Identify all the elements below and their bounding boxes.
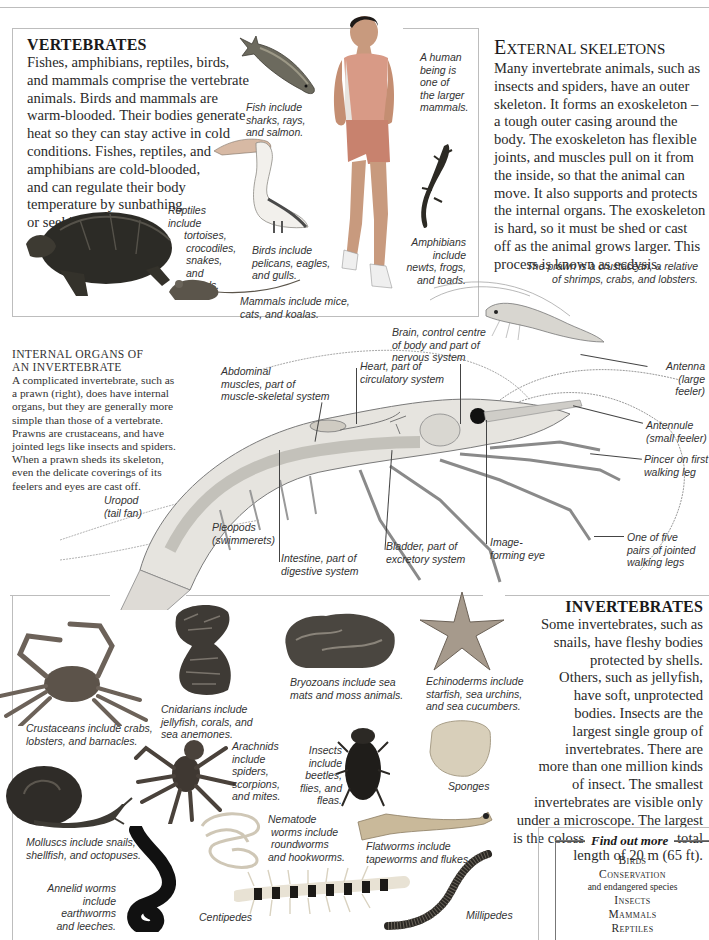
fish-caption: Fish include sharks, rays, and salmon. bbox=[246, 101, 306, 139]
label-uropod: Uropod (tail fan) bbox=[104, 494, 142, 519]
beetle-illustration bbox=[336, 712, 390, 808]
starfish-illustration bbox=[418, 590, 506, 674]
link-insects[interactable]: Insects bbox=[556, 893, 709, 907]
find-out-more-title-row: Find out more bbox=[555, 833, 709, 849]
leader-eye bbox=[486, 420, 487, 544]
link-mammals[interactable]: Mammals bbox=[556, 907, 709, 921]
invertebrates-section: INVERTEBRATES Some invertebrates, such a… bbox=[495, 598, 703, 865]
label-abdominal: Abdominal muscles, part of muscle-skelet… bbox=[221, 365, 330, 403]
link-birds[interactable]: Birds bbox=[556, 853, 709, 867]
vertebrates-box-top-right bbox=[403, 28, 479, 29]
vertebrates-box-left bbox=[12, 28, 13, 316]
label-brain: Brain, control centre of body and part o… bbox=[392, 326, 486, 364]
find-out-more-outer-top bbox=[538, 827, 709, 828]
crab-illustration bbox=[0, 616, 150, 726]
link-conservation[interactable]: Conservation bbox=[556, 867, 709, 881]
leader-walking-legs bbox=[594, 536, 624, 537]
external-skeletons-section: EXTERNAL SKELETONS Many invertebrate ani… bbox=[494, 36, 709, 274]
invertebrates-heading: INVERTEBRATES bbox=[495, 598, 703, 616]
label-pleopods: Pleopods (swimmerets) bbox=[212, 521, 275, 546]
mammals-caption: Mammals include mice, cats, and koalas. bbox=[240, 295, 350, 320]
bryozoans-caption: Bryozoans include sea mats and moss anim… bbox=[290, 676, 403, 701]
label-bladder: Bladder, part of excretory system bbox=[386, 540, 465, 565]
human-caption: A human being is one of the larger mamma… bbox=[420, 51, 468, 114]
label-walking-legs: One of five pairs of jointed walking leg… bbox=[627, 531, 695, 569]
turtle-illustration bbox=[20, 200, 180, 300]
label-antennule: Antennule (small feeler) bbox=[646, 419, 707, 444]
leader-intestine bbox=[279, 450, 280, 562]
sponges-caption: Sponges bbox=[448, 780, 489, 793]
external-skeletons-heading: EXTERNAL SKELETONS bbox=[494, 36, 709, 60]
newt-illustration bbox=[408, 140, 458, 230]
find-out-more-box: Find out more Birds Conservation and end… bbox=[555, 840, 709, 940]
snail-illustration bbox=[4, 764, 134, 834]
find-out-more-links: Birds Conservation and endangered specie… bbox=[556, 853, 709, 935]
leech-illustration bbox=[122, 826, 176, 932]
label-antenna: Antenna (large feeler) bbox=[650, 360, 705, 398]
human-runner-illustration bbox=[322, 12, 412, 292]
sponge-illustration bbox=[428, 716, 492, 778]
echinoderms-caption: Echinoderms include starfish, sea urchin… bbox=[426, 675, 523, 713]
vertebrates-box-top-left bbox=[12, 28, 360, 29]
coral-illustration bbox=[168, 600, 238, 700]
link-conservation-sub[interactable]: and endangered species bbox=[556, 881, 709, 893]
nematodes-caption: Nematode worms include roundworms and ho… bbox=[268, 813, 345, 863]
arachnids-caption: Arachnids include spiders, scorpions, an… bbox=[232, 740, 280, 803]
annelids-caption: Annelid worms include earthworms and lee… bbox=[32, 882, 116, 932]
bryozoan-illustration bbox=[282, 610, 398, 672]
leader-heart bbox=[356, 368, 357, 424]
find-out-more-title: Find out more bbox=[585, 833, 674, 849]
vertebrates-box-right bbox=[478, 28, 479, 316]
insects-caption: Insects include beetles, flies, and flea… bbox=[296, 744, 342, 807]
label-intestine: Intestine, part of digestive system bbox=[281, 552, 359, 577]
millipedes-caption: Millipedes bbox=[466, 909, 513, 922]
label-heart: Heart, part of circulatory system bbox=[360, 360, 444, 385]
label-pincer: Pincer on first walking leg bbox=[644, 453, 708, 478]
centipedes-caption: Centipedes bbox=[199, 911, 252, 924]
leader-brain bbox=[460, 364, 461, 424]
find-out-more-outer-left bbox=[538, 827, 539, 940]
link-reptiles[interactable]: Reptiles bbox=[556, 921, 709, 935]
flatworm-illustration bbox=[356, 808, 496, 844]
fish-illustration bbox=[236, 30, 322, 100]
label-eye: Image- forming eye bbox=[490, 536, 545, 561]
top-rule bbox=[0, 7, 709, 8]
external-skeletons-body: Many invertebrate animals, such as insec… bbox=[494, 60, 709, 274]
vertebrates-heading: VERTEBRATES bbox=[27, 36, 257, 54]
